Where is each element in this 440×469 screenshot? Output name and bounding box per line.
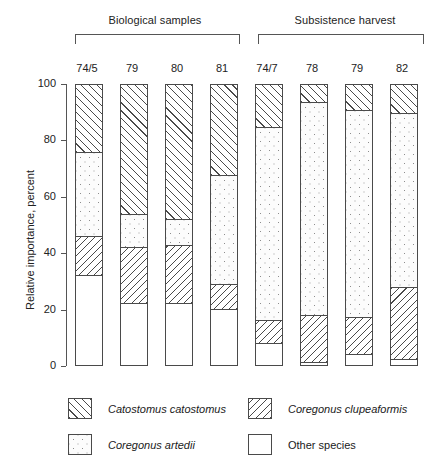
y-tick-label-0: 0: [16, 359, 56, 371]
segment-catostomus-catostomus: [211, 85, 237, 175]
legend-label-other-species: Other species: [288, 439, 356, 451]
bar-74-5: [75, 84, 103, 366]
legend-label-catostomus-catostomus: Catostomus catostomus: [108, 403, 226, 415]
legend-label-coregonus-clupeaformis: Coregonus clupeaformis: [288, 403, 407, 415]
legend-item-other-species: Other species: [248, 434, 356, 455]
y-tick-100: [61, 84, 66, 85]
bar-78: [300, 84, 328, 366]
bar-79-sub: [345, 84, 373, 366]
segment-coregonus-clupeaformis: [211, 284, 237, 309]
y-axis-line: [66, 84, 67, 366]
bar-79-bio: [120, 84, 148, 366]
y-tick-label-60: 60: [16, 190, 56, 202]
y-tick-label-100: 100: [16, 77, 56, 89]
y-tick-label-80: 80: [16, 133, 56, 145]
y-tick-60: [61, 197, 66, 198]
segment-coregonus-clupeaformis: [76, 236, 102, 275]
segment-catostomus-catostomus: [391, 85, 417, 113]
y-tick-0: [61, 366, 66, 367]
segment-coregonus-artedii: [256, 127, 282, 320]
stacked-bar-chart: Biological samples Subsistence harvest R…: [0, 0, 440, 469]
segment-coregonus-clupeaformis: [391, 287, 417, 360]
segment-other-species: [256, 343, 282, 365]
segment-catostomus-catostomus: [76, 85, 102, 152]
segment-catostomus-catostomus: [301, 85, 327, 102]
legend-swatch-catostomus-catostomus: [68, 398, 92, 419]
segment-other-species: [346, 354, 372, 365]
segment-coregonus-artedii: [121, 214, 147, 248]
y-tick-label-20: 20: [16, 303, 56, 315]
bar-80: [165, 84, 193, 366]
segment-other-species: [301, 362, 327, 365]
segment-coregonus-clupeaformis: [256, 320, 282, 342]
segment-other-species: [76, 275, 102, 365]
segment-coregonus-artedii: [391, 113, 417, 287]
legend-swatch-coregonus-artedii: [68, 434, 92, 455]
segment-coregonus-clupeaformis: [346, 317, 372, 353]
y-tick-80: [61, 140, 66, 141]
segment-other-species: [211, 309, 237, 365]
segment-coregonus-clupeaformis: [166, 245, 192, 304]
segment-other-species: [166, 303, 192, 365]
segment-coregonus-artedii: [76, 152, 102, 236]
segment-catostomus-catostomus: [166, 85, 192, 219]
segment-coregonus-clupeaformis: [121, 247, 147, 303]
bar-74-7: [255, 84, 283, 366]
y-tick-20: [61, 310, 66, 311]
legend-item-catostomus-catostomus: Catostomus catostomus: [68, 398, 226, 419]
group-bracket-biological-samples: [75, 34, 240, 44]
segment-catostomus-catostomus: [121, 85, 147, 214]
segment-coregonus-clupeaformis: [301, 315, 327, 363]
segment-coregonus-artedii: [211, 175, 237, 284]
legend-label-coregonus-artedii: Coregonus artedii: [108, 439, 195, 451]
column-label-7: 82: [373, 62, 431, 74]
legend: Catostomus catostomus Coregonus clupeafo…: [0, 392, 440, 469]
segment-coregonus-artedii: [166, 219, 192, 244]
group-title-biological-samples: Biological samples: [60, 14, 250, 26]
segment-other-species: [391, 359, 417, 365]
bar-81: [210, 84, 238, 366]
bar-82: [390, 84, 418, 366]
y-tick-40: [61, 253, 66, 254]
legend-swatch-coregonus-clupeaformis: [248, 398, 272, 419]
segment-coregonus-artedii: [301, 102, 327, 315]
y-tick-label-40: 40: [16, 246, 56, 258]
group-title-subsistence-harvest: Subsistence harvest: [250, 14, 440, 26]
segment-other-species: [121, 303, 147, 365]
group-bracket-subsistence-harvest: [258, 34, 424, 44]
legend-swatch-other-species: [248, 434, 272, 455]
segment-catostomus-catostomus: [346, 85, 372, 110]
legend-item-coregonus-artedii: Coregonus artedii: [68, 434, 195, 455]
segment-catostomus-catostomus: [256, 85, 282, 127]
segment-coregonus-artedii: [346, 110, 372, 317]
legend-item-coregonus-clupeaformis: Coregonus clupeaformis: [248, 398, 407, 419]
